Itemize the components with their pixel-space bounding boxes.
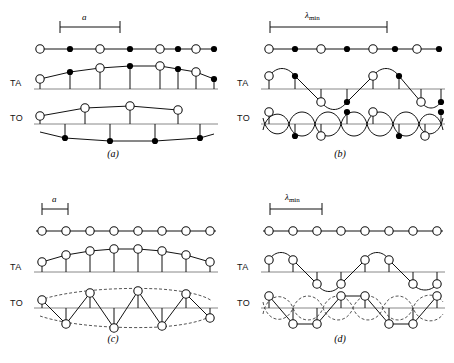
panel-b: λmin TA TO (b) — [227, 0, 454, 181]
panel-d-row-ta — [261, 253, 445, 292]
panel-d-row-undisplaced — [263, 227, 443, 235]
panel-a-row-ta — [34, 62, 218, 89]
panel-d-row-to — [261, 292, 445, 328]
panel-c-diagram — [0, 181, 227, 363]
panel-c-measure-bar — [42, 203, 68, 215]
panel-b-measure-bar — [270, 21, 387, 33]
panel-a-row-to — [34, 102, 218, 144]
panel-a: a TA TO (a) — [0, 0, 227, 181]
panel-a-row-undisplaced — [36, 45, 217, 53]
panel-d: λmin TA TO (d) — [227, 181, 454, 362]
panel-b-row-ta — [261, 69, 445, 110]
panel-c-row-to — [34, 287, 218, 332]
panel-b-row-to — [261, 108, 445, 140]
panel-c-row-ta — [34, 245, 218, 272]
panel-b-row-undisplaced — [265, 45, 442, 53]
panel-d-diagram — [227, 181, 454, 363]
panel-c-row-undisplaced — [36, 227, 216, 235]
panel-a-measure-bar — [60, 21, 120, 33]
panel-c: a TA TO (c) — [0, 181, 227, 362]
panel-b-diagram — [227, 0, 454, 181]
panel-d-measure-bar — [270, 203, 322, 215]
panel-a-diagram — [0, 0, 227, 181]
